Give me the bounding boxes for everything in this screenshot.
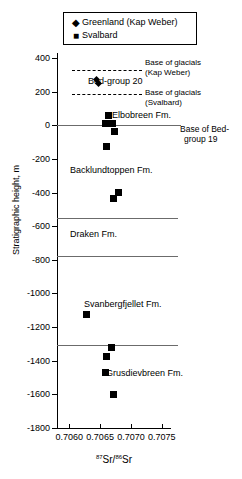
y-axis-tick-label: -1200 <box>2 323 50 332</box>
y-axis-tick <box>52 92 57 93</box>
formation-label: Backlundtoppen Fm. <box>70 165 153 175</box>
y-axis-tick-label: -400 <box>2 189 50 198</box>
y-axis-tick-label: 0 <box>2 121 50 130</box>
y-axis-tick <box>52 327 57 328</box>
data-point-square <box>103 353 110 360</box>
annotation-base-glacials-svalbard: Base of glacials (Svalbard) <box>145 88 241 107</box>
data-point-square <box>110 195 117 202</box>
x-axis-tick-label: 0.7075 <box>142 433 182 442</box>
formation-label: Draken Fm. <box>70 229 117 239</box>
y-axis-tick <box>52 159 57 160</box>
formation-label: Grusdievbreen Fm. <box>106 368 183 378</box>
x-axis-title-end: Sr <box>122 454 132 465</box>
annotation-line-1: Base of glacials <box>145 58 241 68</box>
annotation-line-1: Base of glacials <box>145 88 241 98</box>
y-axis-tick-label: -1400 <box>2 357 50 366</box>
annotation-base-glacials-kap-weber: Base of glacials (Kap Weber) <box>145 58 241 77</box>
annotation-line-2: (Svalbard) <box>145 98 241 108</box>
data-point-square <box>103 143 110 150</box>
legend-entry-svalbard: ■Svalbard <box>70 29 118 42</box>
data-point-square <box>110 391 117 398</box>
formation-boundary-line <box>57 125 181 126</box>
y-axis-tick-label: -1000 <box>2 289 50 298</box>
data-point-square <box>102 369 109 376</box>
legend-entry-greenland: ◆Greenland (Kap Weber) <box>70 16 177 29</box>
data-point-square <box>109 120 116 127</box>
glacial-base-line <box>72 70 142 71</box>
y-axis-tick-label: -600 <box>2 222 50 231</box>
y-axis-tick-label: -200 <box>2 155 50 164</box>
x-axis-tick <box>100 424 101 428</box>
annotation-line-2: group 19 <box>180 134 242 144</box>
y-axis-tick-label: -800 <box>2 256 50 265</box>
data-point-square <box>115 189 122 196</box>
formation-label: Elbobreen Fm. <box>112 110 171 120</box>
x-axis-tick <box>162 424 163 428</box>
x-axis-tick <box>131 424 132 428</box>
y-axis-tick <box>52 193 57 194</box>
formation-boundary-line <box>57 256 178 257</box>
y-axis-line <box>57 53 58 428</box>
legend-label-svalbard: Svalbard <box>82 29 118 42</box>
data-point-square <box>83 311 90 318</box>
annotation-line-1: Base of Bed- <box>180 124 242 134</box>
x-axis-tick <box>69 424 70 428</box>
formation-boundary-line <box>57 345 178 346</box>
chart-legend: ◆Greenland (Kap Weber) ■Svalbard <box>63 12 197 45</box>
x-axis-title-mid: Sr/ <box>103 454 116 465</box>
x-axis-title-sup1: 87 <box>96 454 103 460</box>
annotation-line-2: (Kap Weber) <box>145 68 241 78</box>
y-axis-tick-label: 200 <box>2 88 50 97</box>
y-axis-tick <box>52 260 57 261</box>
strontium-isotope-stratigraphy-chart: ◆Greenland (Kap Weber) ■Svalbard 4002000… <box>0 0 242 479</box>
formation-boundary-line <box>57 218 178 219</box>
diamond-marker-icon: ◆ <box>70 16 82 29</box>
data-point-square <box>111 128 118 135</box>
y-axis-tick <box>52 428 57 429</box>
legend-label-greenland: Greenland (Kap Weber) <box>82 16 177 29</box>
data-point-square <box>108 344 115 351</box>
glacial-base-line <box>72 94 142 95</box>
x-axis-line <box>57 428 171 429</box>
square-marker-icon: ■ <box>70 29 82 42</box>
annotation-base-bedgroup-19: Base of Bed- group 19 <box>180 124 242 144</box>
y-axis-tick <box>52 361 57 362</box>
y-axis-tick <box>52 293 57 294</box>
y-axis-title: Stratigraphic height, m <box>11 150 21 270</box>
y-axis-tick <box>52 58 57 59</box>
x-axis-title: 87Sr/86Sr <box>57 452 171 465</box>
y-axis-tick <box>52 394 57 395</box>
y-axis-tick-label: -1800 <box>2 424 50 433</box>
formation-label: Svanbergfjellet Fm. <box>84 299 162 309</box>
y-axis-tick-label: -1600 <box>2 390 50 399</box>
y-axis-tick-label: 400 <box>2 54 50 63</box>
y-axis-tick <box>52 226 57 227</box>
data-point-square <box>105 112 112 119</box>
